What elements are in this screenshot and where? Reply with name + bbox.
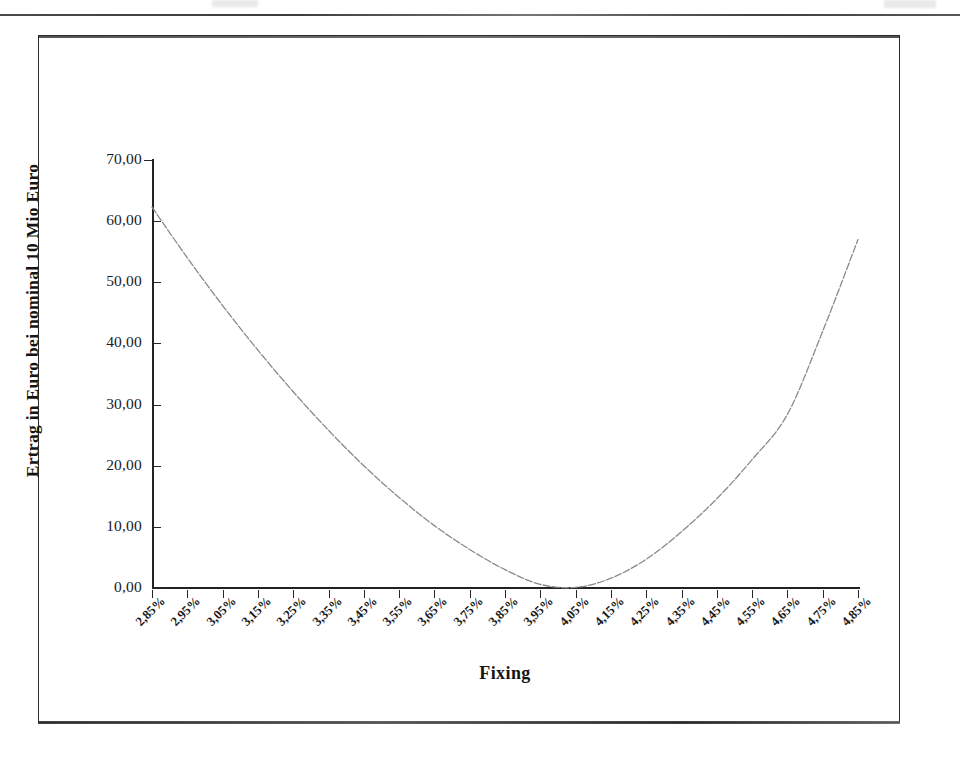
page-header-rule [0,14,960,16]
scan-artifact-top-left [212,0,258,7]
y-axis-tick-label: 40,00 [82,333,142,351]
y-axis-tick-label: 0,00 [82,578,142,596]
y-axis-tick-label: 30,00 [82,395,142,413]
y-axis-tick-label: 20,00 [82,456,142,474]
scan-artifact-top-right [884,0,936,8]
y-axis-tick-label: 50,00 [82,272,142,290]
chart-frame-top-edge [39,36,899,38]
y-axis-tick-label: 10,00 [82,517,142,535]
page-footer-rule [38,721,900,724]
x-axis-title: Fixing [152,663,858,684]
data-series-curve [152,160,858,590]
series-ertrag-path [152,207,858,588]
y-axis-tick-label: 60,00 [82,211,142,229]
y-axis-tick-label: 70,00 [82,150,142,168]
y-axis-title: Ertrag in Euro bei nominal 10 Mio Euro [22,41,43,601]
plot-area [152,160,858,588]
